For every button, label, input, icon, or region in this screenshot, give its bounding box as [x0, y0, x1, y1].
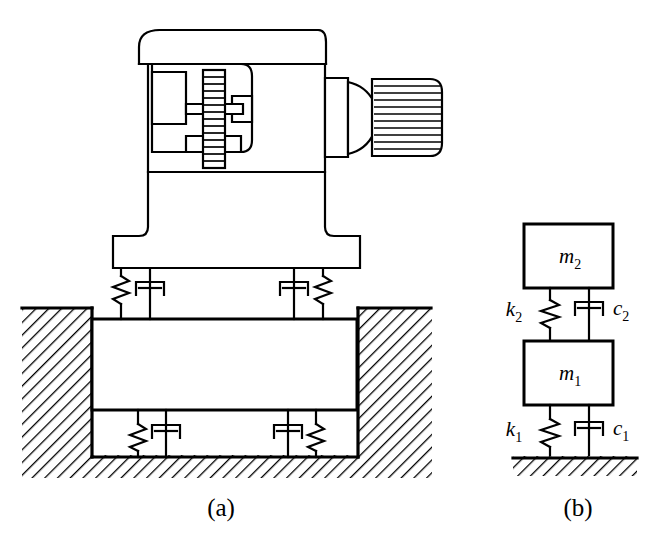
damper-lower	[575, 405, 603, 459]
engineering-diagram: (a) m2 k2 c2 m1	[0, 0, 651, 546]
damper-upper-label: c2	[613, 296, 629, 324]
spring-lower-label: k1	[506, 417, 522, 445]
spring-upper-label: k2	[506, 297, 522, 325]
lower-isolator-right-spring	[308, 410, 324, 457]
fixed-ground-hatched	[511, 456, 639, 478]
lower-isolator-right-damper	[274, 410, 302, 457]
pit-right-wall	[356, 305, 434, 473]
spring-upper	[541, 288, 559, 341]
damper-upper	[575, 288, 603, 341]
upper-isolator-left-spring	[113, 268, 129, 319]
motor-neck	[348, 82, 374, 154]
electric-motor-body	[372, 79, 442, 156]
caption-a: (a)	[207, 494, 235, 522]
upper-isolator-left-damper	[136, 268, 164, 319]
upper-isolator-right-damper	[280, 268, 308, 319]
caption-b: (b)	[563, 494, 592, 522]
lower-isolator-left-spring	[130, 410, 146, 457]
lower-isolator-left-damper	[152, 410, 180, 457]
motor-mount-flange	[325, 78, 348, 157]
machine-base-foot	[113, 172, 360, 268]
upper-isolator-right-spring	[315, 268, 331, 319]
panel-b-group: m2 k2 c2 m1	[506, 224, 639, 522]
machine-top-arm	[139, 30, 326, 64]
spring-lower	[541, 405, 559, 459]
clamp-left-jaw-recess	[152, 72, 186, 124]
concrete-inertia-block	[92, 319, 357, 410]
figure-container: (a) m2 k2 c2 m1	[0, 0, 651, 546]
damper-lower-label: c1	[613, 416, 629, 444]
pit-left-wall	[20, 305, 94, 473]
panel-a-group: (a)	[20, 30, 442, 522]
